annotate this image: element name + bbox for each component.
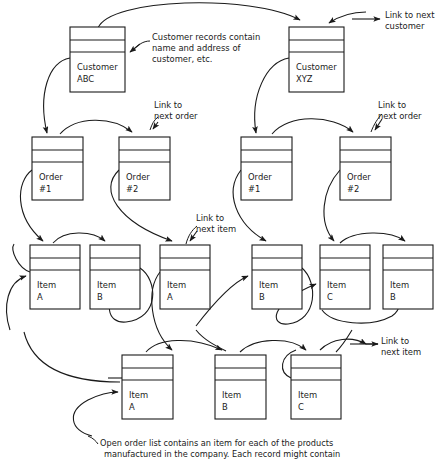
record-label-line2: XYZ (296, 74, 313, 84)
annotation-line: customer, etc. (152, 54, 212, 64)
link-upper-to-bottom-itemC (336, 330, 352, 352)
link-order2-right-to-itemC1 (324, 170, 340, 241)
record-label-line2: A (167, 292, 173, 302)
record-label-line1: Customer (296, 62, 337, 72)
link-customer-note-tip (130, 44, 140, 52)
record-box-order-1-right[interactable]: Order#1 (241, 137, 292, 200)
record-label-line2: #2 (347, 184, 359, 194)
annotation-line: next order (378, 111, 422, 121)
link-next-order-left-tip (153, 122, 158, 129)
record-label-line2: C (327, 292, 333, 302)
record-label-line2: A (37, 292, 43, 302)
record-label-line2: B (222, 402, 228, 412)
record-box-order-1-left[interactable]: Order#1 (32, 137, 83, 200)
record-label-line1: Item (298, 390, 317, 400)
record-label-line2: B (259, 292, 265, 302)
record-label-line2: A (129, 402, 135, 412)
link-customer-xyz-to-order1 (255, 58, 289, 133)
link-order1-to-order2-left (60, 120, 132, 134)
annotation-line: Link to (378, 100, 406, 110)
link-itemA1-to-itemB1 (53, 233, 105, 243)
record-label-line1: Item (129, 390, 148, 400)
annotation-link-to-next-item-right: Link tonext item (381, 336, 421, 357)
record-box-item-c-1[interactable]: ItemC (320, 245, 370, 309)
annotation-line: Link to (154, 100, 182, 110)
annotation-line: Customer records contain (152, 32, 260, 42)
link-customer-abc-to-order1 (44, 58, 70, 133)
caption-open-order-list-caption: Open order list contains an item for eac… (100, 438, 340, 459)
record-box-order-2-right[interactable]: Order#2 (340, 137, 391, 200)
annotation-line: next item (381, 347, 421, 357)
record-box-item-b-3[interactable]: ItemB (383, 245, 433, 309)
record-label-line1: Item (327, 280, 346, 290)
records-layer: CustomerABCCustomerXYZOrder#1Order#2Orde… (30, 27, 433, 419)
link-upper-to-bottom-itemB (196, 330, 226, 351)
record-label-line2: #2 (126, 184, 138, 194)
link-itemC1-to-itemB3 (340, 233, 405, 243)
record-label-line2: #1 (248, 184, 260, 194)
record-box-order-2-left[interactable]: Order#2 (119, 137, 170, 200)
annotation-line: Link to next (385, 10, 435, 20)
annotation-line: customer (385, 21, 425, 31)
link-customer-abc-to-xyz (98, 3, 300, 28)
record-box-item-b-2[interactable]: ItemB (252, 245, 302, 309)
record-label-line2: B (97, 292, 103, 302)
record-label-line2: B (390, 292, 396, 302)
caption-line: Open order list contains an item for eac… (100, 438, 333, 448)
link-next-customer-incoming (329, 12, 366, 23)
annotation-line: name and address of (152, 43, 242, 53)
record-label-line1: Item (222, 390, 241, 400)
record-label-line1: Item (167, 280, 186, 290)
record-label-line1: Item (259, 280, 278, 290)
link-left-sweep-to-bottom-itemA (24, 332, 120, 382)
link-bottom-to-itemA1 (7, 276, 26, 330)
link-caption-to-bottom-itemA (73, 392, 118, 436)
leader-caption (88, 436, 98, 444)
caption-line: manufactured in the company. Each record… (104, 449, 340, 459)
record-label-line1: Item (390, 280, 409, 290)
record-box-item-a-3[interactable]: ItemA (122, 355, 173, 419)
leader-customer-records-note (133, 41, 150, 50)
record-label-line1: Item (37, 280, 56, 290)
record-box-item-b-4[interactable]: ItemB (215, 355, 266, 419)
annotation-link-to-next-item-middle: Link tonext item (196, 213, 236, 234)
record-box-customer-abc[interactable]: CustomerABC (70, 27, 125, 92)
record-label-line2: C (298, 402, 304, 412)
record-label-line1: Customer (77, 62, 118, 72)
annotation-line: Link to (196, 213, 224, 223)
record-box-item-a-2[interactable]: ItemA (160, 245, 210, 309)
annotation-line: Link to (381, 336, 409, 346)
annotation-customer-records-note: Customer records containname and address… (152, 32, 260, 64)
diagram-root: CustomerABCCustomerXYZOrder#1Order#2Orde… (0, 0, 443, 468)
record-label-line1: Item (97, 280, 116, 290)
link-far-left-edge (13, 244, 30, 272)
annotation-link-to-next-order-left: Link tonext order (154, 100, 198, 121)
record-label-line1: Order (347, 172, 371, 182)
record-label-line1: Order (248, 172, 272, 182)
annotation-line: next item (196, 224, 236, 234)
record-box-item-b-1[interactable]: ItemB (90, 245, 140, 309)
caption-layer: Open order list contains an item for eac… (100, 438, 340, 459)
link-order1-to-order2-right (272, 119, 353, 134)
diagram-canvas: CustomerABCCustomerXYZOrder#1Order#2Orde… (0, 0, 443, 468)
record-box-item-a-1[interactable]: ItemA (30, 245, 80, 309)
record-label-line2: #1 (39, 184, 51, 194)
annotation-line: next order (154, 111, 198, 121)
record-label-line1: Order (126, 172, 150, 182)
record-label-line1: Order (39, 172, 63, 182)
record-label-line2: ABC (77, 74, 94, 84)
record-box-item-c-2[interactable]: ItemC (291, 355, 341, 419)
annotation-link-to-next-customer: Link to nextcustomer (385, 10, 435, 31)
annotation-link-to-next-order-right: Link tonext order (378, 100, 422, 121)
record-box-customer-xyz[interactable]: CustomerXYZ (289, 27, 344, 92)
